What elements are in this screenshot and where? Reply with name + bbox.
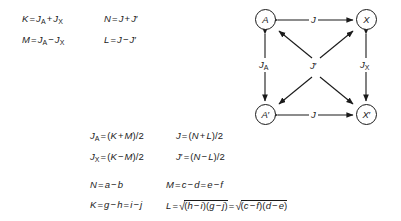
equation-ja-solved: JA=(K+M)/2 — [90, 131, 144, 142]
node-x-prime[interactable]: X′ — [356, 104, 377, 125]
node-a[interactable]: A — [255, 9, 276, 30]
equation-l-measured: L=√(h−i)(g−j)=√(c−f)(d−e) — [166, 200, 287, 212]
edge-center-x — [320, 31, 353, 58]
eq-lhs: M — [22, 34, 30, 45]
coupling-diagram: A X A′ X′ J J JA JX J′ — [222, 0, 401, 132]
prime-mark: ′ — [136, 13, 138, 24]
eq-operator: + — [123, 13, 131, 24]
edge-center-ap — [279, 77, 312, 104]
equation-k-measured: K=g−h=i−j — [90, 200, 142, 210]
equation-j-prime-solved: J′=(N−L)/2 — [176, 152, 225, 162]
edge-label-jx-right: JX — [358, 58, 371, 72]
eq-subscript: X — [95, 156, 100, 163]
node-x-label: X — [363, 14, 369, 25]
sqrt-term-1: √(h−i)(g−j) — [179, 200, 228, 212]
prime-mark: ′ — [134, 34, 136, 45]
edge-label-j-top: J — [309, 13, 318, 26]
edge-center-xp — [320, 77, 353, 104]
edge-center-a — [279, 31, 312, 58]
equation-m-definition: M=JA−JX — [22, 35, 64, 46]
eq-lhs: M — [166, 179, 174, 190]
node-x[interactable]: X — [356, 9, 377, 30]
equation-l-definition: L=J−J′ — [104, 35, 136, 45]
equation-n-definition: N=J+J′ — [104, 14, 138, 24]
equation-jx-solved: JX=(K−M)/2 — [90, 152, 144, 163]
eq-operator: − — [47, 34, 55, 45]
node-a-prime[interactable]: A′ — [255, 104, 276, 125]
equation-m-measured: M=c−d=e−f — [166, 180, 223, 190]
edge-label-j-bottom: J — [309, 108, 318, 121]
eq-subscript: A — [95, 135, 100, 142]
equation-n-measured: N=a−b — [90, 180, 123, 190]
sqrt-term-2: √(c−f)(d−e) — [235, 200, 287, 212]
node-a-label: A — [262, 14, 268, 25]
equation-k-definition: K=JA+JX — [22, 14, 63, 25]
edge-label-ja-left: JA — [257, 58, 270, 72]
eq-lhs: N — [104, 13, 111, 24]
eq-operator: − — [122, 34, 130, 45]
eq-subscript: A — [41, 18, 46, 25]
eq-lhs: N — [90, 179, 97, 190]
equation-j-solved: J=(N+L)/2 — [176, 131, 223, 141]
eq-subscript: X — [58, 18, 63, 25]
eq-subscript: X — [60, 39, 65, 46]
edge-label-j-prime-center: J′ — [308, 59, 319, 72]
